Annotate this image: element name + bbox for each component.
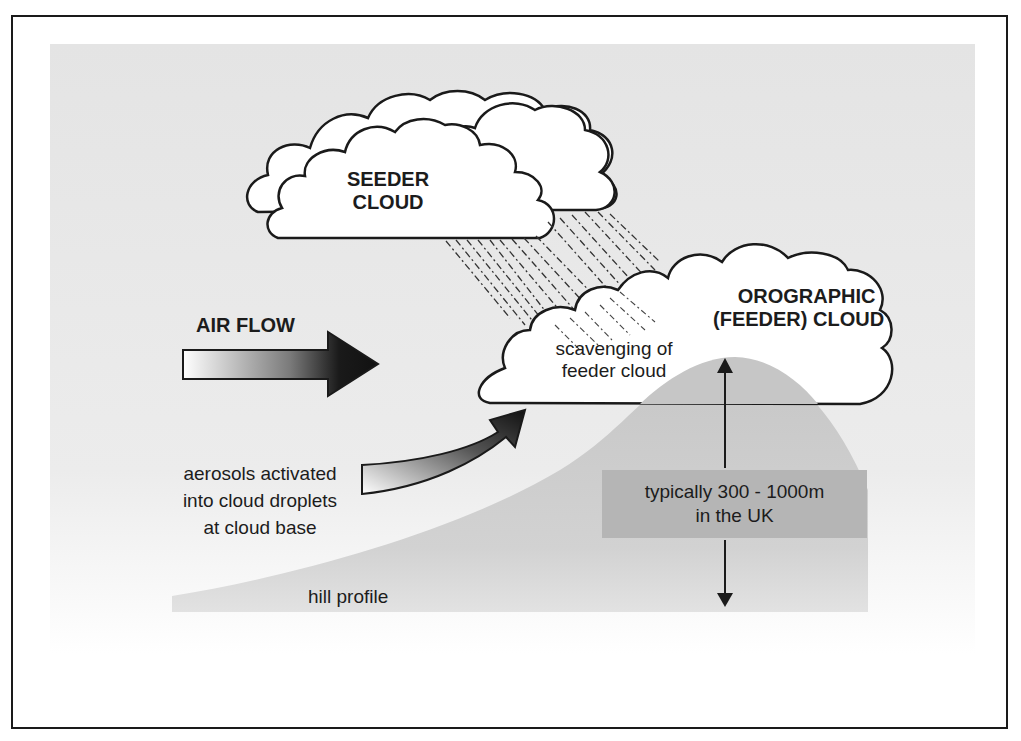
height-label: typically 300 - 1000m in the UK bbox=[602, 480, 867, 528]
seeder-cloud-label-line1: SEEDER bbox=[338, 168, 438, 191]
scavenging-label-line1: scavenging of bbox=[534, 338, 694, 360]
aerosols-label: aerosols activated into cloud droplets a… bbox=[160, 460, 360, 541]
seeder-cloud-label: SEEDER CLOUD bbox=[338, 168, 438, 214]
orographic-label-line2: (FEEDER) CLOUD bbox=[713, 308, 884, 331]
height-label-line1: typically 300 - 1000m bbox=[602, 480, 867, 504]
height-label-line2: in the UK bbox=[602, 504, 867, 528]
orographic-cloud-label: OROGRAPHIC (FEEDER) CLOUD bbox=[713, 285, 884, 331]
orographic-label-line1: OROGRAPHIC bbox=[713, 285, 884, 308]
hill-profile-label: hill profile bbox=[308, 586, 388, 608]
scavenging-label: scavenging of feeder cloud bbox=[534, 338, 694, 382]
seeder-cloud-label-line2: CLOUD bbox=[338, 191, 438, 214]
air-flow-label: AIR FLOW bbox=[196, 314, 295, 337]
scavenging-label-line2: feeder cloud bbox=[534, 360, 694, 382]
aerosols-label-line2: into cloud droplets bbox=[160, 487, 360, 514]
aerosols-label-line1: aerosols activated bbox=[160, 460, 360, 487]
diagram-canvas bbox=[0, 0, 1021, 741]
aerosols-label-line3: at cloud base bbox=[160, 514, 360, 541]
